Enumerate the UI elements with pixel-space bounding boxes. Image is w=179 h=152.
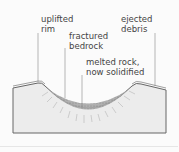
label-melted-rock: melted rock, now solidified (86, 57, 144, 77)
label-ejected-debris: ejected debris (121, 14, 152, 34)
label-fractured-bedrock: fractured bedrock (69, 31, 108, 51)
